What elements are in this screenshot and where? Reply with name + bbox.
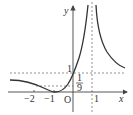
tick-label-1: 1	[94, 93, 99, 104]
origin-label: O	[64, 94, 71, 105]
function-graph: y x O −2 −1 1 1 1 9	[0, 0, 133, 115]
graph-canvas: y x O −2 −1 1 1 1 9	[0, 0, 133, 115]
y-tick-label-one-ninth-den: 9	[77, 82, 82, 93]
tick-label-neg2: −2	[24, 93, 35, 104]
tick-label-neg1: −1	[44, 93, 55, 104]
y-tick-label-1: 1	[67, 63, 72, 74]
x-axis-label: x	[118, 93, 124, 104]
y-axis-label: y	[63, 5, 69, 16]
curve-right-branch	[96, 5, 125, 68]
